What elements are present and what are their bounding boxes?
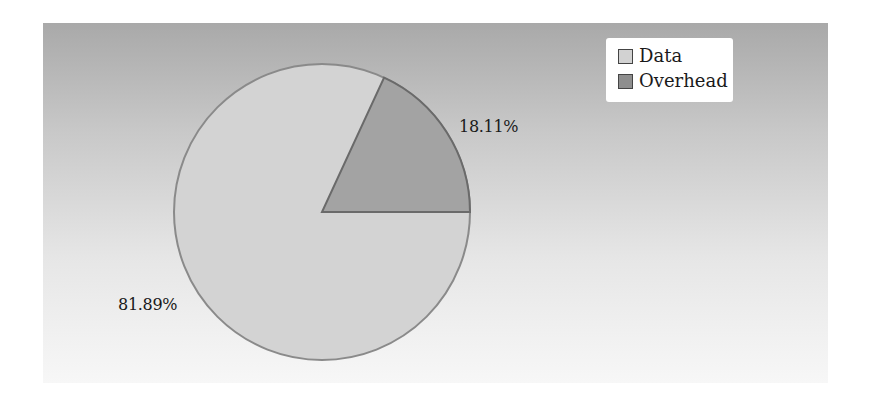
legend-label-data: Data [639,46,682,66]
legend-item-data: Data [618,46,682,66]
pie-chart [0,0,870,399]
chart-legend: Data Overhead [606,38,733,102]
legend-item-overhead: Overhead [618,71,728,91]
slice-label-data: 81.89% [118,295,177,314]
legend-swatch-overhead [618,74,633,89]
slice-label-overhead: 18.11% [459,117,518,136]
legend-swatch-data [618,49,633,64]
legend-label-overhead: Overhead [639,71,728,91]
